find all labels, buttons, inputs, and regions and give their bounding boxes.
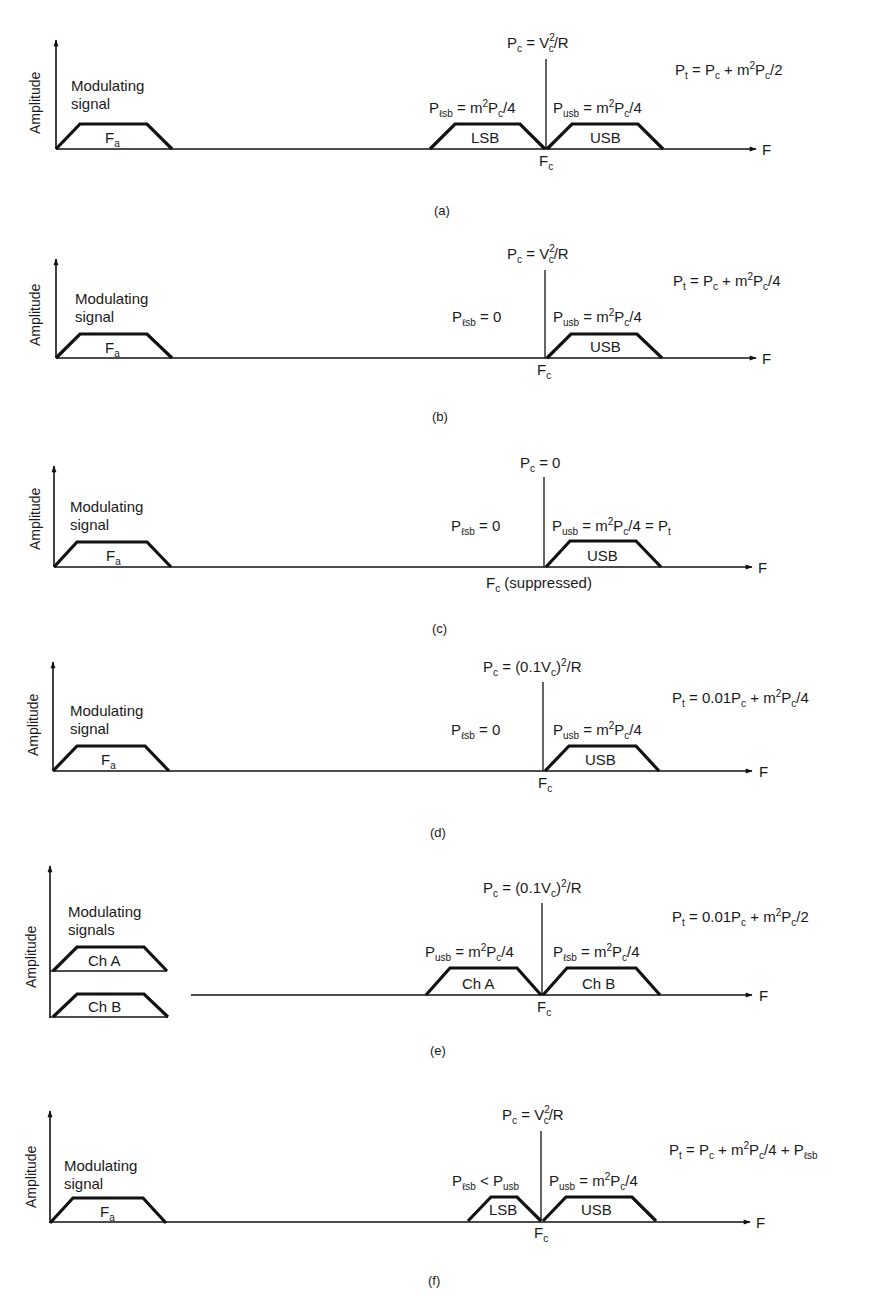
baseband-label: Fa bbox=[106, 547, 121, 567]
panel-caption: (d) bbox=[430, 825, 446, 840]
modulating-label: Modulating bbox=[70, 702, 143, 719]
am-sideband-diagram: Amplitude F Modulating signal Fa Pc = V2… bbox=[0, 0, 887, 1297]
channel-b-label: Ch B bbox=[88, 998, 121, 1015]
modulating-label: Modulating bbox=[68, 903, 141, 920]
modulating-label-2: signal bbox=[70, 516, 109, 533]
modulating-label: Modulating bbox=[64, 1157, 137, 1174]
baseband-label: Fa bbox=[100, 1203, 115, 1223]
usb-power-label: Pusb = m2Pc/4 bbox=[425, 942, 514, 963]
carrier-freq-label-a: Fc bbox=[539, 152, 553, 172]
x-axis-label: F bbox=[762, 350, 771, 367]
y-axis-label: Amplitude bbox=[27, 488, 43, 550]
x-axis-label: F bbox=[762, 141, 771, 158]
y-axis-label: Amplitude bbox=[25, 694, 41, 756]
modulating-label: Modulating bbox=[75, 290, 148, 307]
y-axis-label: Amplitude bbox=[23, 926, 39, 988]
carrier-power-label: Pc = V2c/R bbox=[502, 1104, 564, 1126]
channel-b-sideband-label: Ch B bbox=[582, 975, 615, 992]
panel-a: Amplitude F Modulating signal Fa Pc = V2… bbox=[27, 32, 783, 218]
usb-power-label: Pusb = m2Pc/4 = Pt bbox=[552, 516, 671, 537]
panel-caption: (f) bbox=[428, 1273, 440, 1288]
lsb-power-label: Pℓsb < Pusb bbox=[452, 1172, 519, 1192]
lsb-power-label: Pℓsb = m2Pc/4 bbox=[429, 98, 516, 119]
modulating-label-2: signals bbox=[68, 921, 115, 938]
x-axis-label: F bbox=[758, 559, 767, 576]
carrier-freq-label-b: Fc bbox=[537, 361, 551, 381]
total-power-label: Pt = Pc + m2Pc/4 + Pℓsb bbox=[669, 1140, 818, 1161]
carrier-freq-label: Fc bbox=[537, 998, 551, 1018]
carrier-power-label: Pc = V2c/R bbox=[507, 32, 569, 54]
total-power-label: Pt = 0.01Pc + m2Pc/2 bbox=[672, 907, 809, 928]
lsb-power-label: Pℓsb = 0 bbox=[451, 721, 500, 741]
modulating-label-2: signal bbox=[75, 308, 114, 325]
baseband-label: Fa bbox=[101, 751, 116, 771]
carrier-freq-label: Fc (suppressed) bbox=[486, 574, 592, 594]
usb-power-label: Pusb = m2Pc/4 bbox=[553, 307, 642, 328]
modulating-label: Modulating bbox=[71, 77, 144, 94]
panel-caption: (e) bbox=[430, 1043, 446, 1058]
total-power-label: Pt = Pc + m2Pc/4 bbox=[673, 271, 781, 292]
lsb-label: LSB bbox=[471, 129, 499, 146]
y-axis-label: Amplitude bbox=[27, 72, 43, 134]
panel-b: Amplitude F Modulating signal Fa Pc = V2… bbox=[27, 243, 781, 424]
x-axis-label: F bbox=[759, 763, 768, 780]
panel-caption: (b) bbox=[432, 409, 448, 424]
baseband-label: Fa bbox=[105, 129, 120, 149]
lsb-power-label: Pℓsb = 0 bbox=[452, 308, 501, 328]
carrier-power-label: Pc = V2c/R bbox=[507, 243, 569, 265]
usb-label: USB bbox=[590, 338, 621, 355]
panel-c: Amplitude F Modulating signal Fa Pc = 0 … bbox=[27, 454, 767, 636]
panel-caption: (a) bbox=[434, 203, 450, 218]
usb-power-label: Pusb = m2Pc/4 bbox=[553, 720, 642, 741]
modulating-label-2: signal bbox=[64, 1175, 103, 1192]
carrier-power-label: Pc = (0.1Vc)2/R bbox=[483, 878, 582, 899]
baseband-label: Fa bbox=[105, 339, 120, 359]
carrier-freq-label: Fc bbox=[534, 1224, 548, 1244]
panel-e: Amplitude Modulating signals Ch A Ch B F… bbox=[23, 866, 809, 1058]
y-axis-label: Amplitude bbox=[23, 1146, 39, 1208]
carrier-power-label: Pc = (0.1Vc)2/R bbox=[483, 657, 582, 678]
carrier-power-label: Pc = 0 bbox=[520, 454, 560, 474]
lsb-label: LSB bbox=[489, 1201, 517, 1218]
usb-power-label: Pusb = m2Pc/4 bbox=[553, 98, 642, 119]
total-power-label: Pt = 0.01Pc + m2Pc/4 bbox=[672, 688, 809, 709]
usb-label: USB bbox=[587, 547, 618, 564]
lsb-power-label: Pℓsb = m2Pc/4 bbox=[553, 942, 640, 963]
modulating-label-2: signal bbox=[70, 720, 109, 737]
modulating-label-2: signal bbox=[71, 95, 110, 112]
total-power-label: Pt = Pc + m2Pc/2 bbox=[675, 60, 783, 81]
usb-power-label: Pusb = m2Pc/4 bbox=[549, 1171, 638, 1192]
usb-label: USB bbox=[585, 751, 616, 768]
panel-caption: (c) bbox=[432, 621, 447, 636]
usb-label: USB bbox=[581, 1201, 612, 1218]
usb-label: USB bbox=[590, 129, 621, 146]
y-axis-label: Amplitude bbox=[27, 284, 43, 346]
modulating-label: Modulating bbox=[70, 498, 143, 515]
panel-d: Amplitude F Modulating signal Fa Pc = (0… bbox=[25, 657, 809, 840]
panel-f: Amplitude F Modulating signal Fa Pc = V2… bbox=[23, 1104, 818, 1288]
carrier-freq-label: Fc bbox=[538, 774, 552, 794]
channel-a-sideband-label: Ch A bbox=[462, 975, 495, 992]
x-axis-label: F bbox=[756, 1214, 765, 1231]
lsb-power-label: Pℓsb = 0 bbox=[451, 517, 500, 537]
x-axis-label: F bbox=[759, 987, 768, 1004]
channel-a-label: Ch A bbox=[88, 952, 121, 969]
